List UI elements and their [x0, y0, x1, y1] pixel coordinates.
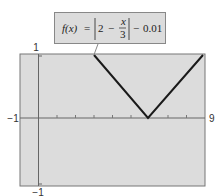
eq-frac-den: 3 [120, 28, 126, 40]
y-max-label: 1 [33, 42, 39, 53]
eq-outer-minus: − [133, 22, 139, 34]
eq-frac-num: x [120, 15, 126, 27]
chart: 1 −1 −1 9 f(x) = 2 − x 3 − 0.01 [0, 0, 224, 196]
y-min-label: −1 [32, 187, 44, 196]
eq-equals: = [84, 22, 90, 34]
eq-lhs: f(x) [62, 22, 78, 35]
x-min-label: −1 [7, 113, 19, 124]
equation-callout: f(x) = 2 − x 3 − 0.01 [55, 13, 166, 56]
eq-const: 2 [98, 22, 104, 34]
plot-area [20, 54, 205, 186]
eq-outer-const: 0.01 [143, 22, 162, 34]
eq-minus: − [108, 22, 114, 34]
x-max-label: 9 [209, 113, 215, 124]
